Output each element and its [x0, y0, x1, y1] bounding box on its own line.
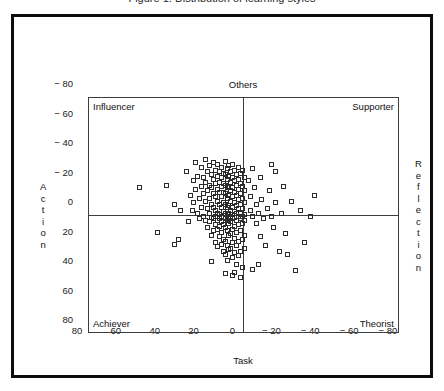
scatter-point: [240, 265, 245, 270]
scatter-point: [285, 252, 290, 257]
plot-area: Influencer Supporter Achiever Theorist: [88, 97, 399, 333]
quadrant-label-achiever: Achiever: [93, 318, 130, 329]
axis-right-label-letter: e: [416, 169, 421, 181]
axis-right-label-letter: t: [417, 227, 420, 239]
scatter-point: [254, 202, 259, 207]
scatter-point: [252, 185, 257, 190]
scatter-point: [240, 168, 245, 173]
scatter-point: [250, 267, 255, 272]
scatter-point: [190, 208, 195, 213]
scatter-point: [254, 221, 259, 226]
scatter-point: [256, 211, 261, 216]
scatter-point: [137, 185, 142, 190]
scatter-point: [155, 230, 160, 235]
scatter-point: [289, 199, 294, 204]
y-tick-label: 60: [35, 284, 73, 295]
scatter-point: [258, 175, 263, 180]
scatter-point: [261, 216, 266, 221]
scatter-point: [234, 262, 239, 267]
y-tick-label: − 60: [35, 107, 73, 118]
scatter-point: [242, 246, 247, 251]
scatter-point: [273, 200, 278, 205]
scatter-point: [207, 196, 212, 201]
figure-frame: Others Task Action Reflection − 80− 60− …: [11, 14, 433, 378]
scatter-point: [242, 218, 247, 223]
scatter-point: [199, 205, 204, 210]
scatter-point: [248, 194, 253, 199]
scatter-point: [279, 211, 284, 216]
scatter-point: [205, 225, 210, 230]
scatter-point: [219, 230, 224, 235]
scatter-point: [197, 196, 202, 201]
scatter-point: [277, 249, 282, 254]
scatter-point: [269, 162, 274, 167]
axis-left-label-letter: n: [41, 238, 46, 250]
axis-right-label-letter: c: [416, 215, 421, 227]
y-tick-label: 0: [35, 196, 73, 207]
y-tick-label: − 40: [35, 137, 73, 148]
scatter-point: [164, 183, 169, 188]
scatter-point: [195, 174, 200, 179]
scatter-point: [230, 273, 235, 278]
axis-right-label-letter: f: [417, 181, 420, 193]
scatter-point: [256, 262, 261, 267]
scatter-point: [203, 157, 208, 162]
axis-left-label-letter: A: [40, 181, 46, 193]
scatter-point: [302, 240, 307, 245]
quadrant-label-influencer: Influencer: [93, 101, 135, 112]
axis-right-label-letter: n: [416, 261, 421, 273]
scatter-point: [209, 259, 214, 264]
scatter-point: [178, 208, 183, 213]
y-tick-label: 20: [35, 225, 73, 236]
quadrant-label-supporter: Supporter: [352, 101, 394, 112]
scatter-point: [273, 169, 278, 174]
scatter-point: [193, 187, 198, 192]
scatter-point: [193, 160, 198, 165]
scatter-point: [209, 185, 214, 190]
scatter-point: [281, 184, 286, 189]
figure-title: Figure 1. Distribution of learning style…: [0, 0, 444, 4]
scatter-point: [250, 166, 255, 171]
scatter-point: [242, 233, 247, 238]
scatter-point: [312, 193, 317, 198]
scatter-point: [283, 231, 288, 236]
scatter-point: [248, 208, 253, 213]
scatter-point: [234, 243, 239, 248]
scatter-point: [238, 275, 243, 280]
axis-right-label-letter: i: [417, 238, 419, 250]
scatter-point: [199, 184, 204, 189]
scatter-point: [308, 214, 313, 219]
scatter-point: [219, 165, 224, 170]
scatter-point: [263, 243, 268, 248]
figure-container: Figure 1. Distribution of learning style…: [0, 0, 444, 391]
axis-bottom-label: Task: [233, 355, 253, 366]
scatter-point: [188, 193, 193, 198]
scatter-point: [269, 214, 274, 219]
scatter-point: [258, 234, 263, 239]
y-tick-label: − 20: [35, 166, 73, 177]
scatter-point: [240, 237, 245, 242]
axis-top-label: Others: [229, 79, 258, 90]
quadrant-label-theorist: Theorist: [360, 318, 394, 329]
scatter-point: [230, 255, 235, 260]
scatter-point: [240, 206, 245, 211]
scatter-point: [293, 268, 298, 273]
scatter-point: [172, 202, 177, 207]
scatter-point: [195, 211, 200, 216]
axis-right-label-letter: o: [416, 250, 421, 262]
scatter-point: [172, 242, 177, 247]
axis-right-label-letter: R: [415, 158, 422, 170]
axis-right-label-letter: l: [417, 192, 419, 204]
scatter-point: [242, 212, 247, 217]
scatter-point: [265, 206, 270, 211]
axis-right-label-letter: e: [416, 204, 421, 216]
scatter-point: [199, 165, 204, 170]
scatter-point: [259, 197, 264, 202]
scatter-point: [184, 169, 189, 174]
axis-right-label: Reflection: [415, 158, 422, 273]
scatter-point: [230, 162, 235, 167]
scatter-point: [267, 188, 272, 193]
scatter-point: [191, 178, 196, 183]
scatter-point: [298, 208, 303, 213]
scatter-point: [250, 214, 255, 219]
